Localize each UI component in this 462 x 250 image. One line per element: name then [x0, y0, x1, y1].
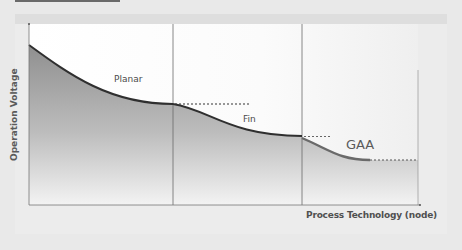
gaa-label: GAA — [346, 137, 374, 152]
x-axis-arrow-icon — [419, 204, 421, 206]
planar-label: Planar — [114, 74, 142, 84]
y-axis-arrow-icon — [28, 23, 30, 25]
x-axis-label: Process Technology (node) — [306, 210, 437, 220]
fin-label: Fin — [243, 114, 256, 124]
y-axis-label: Operation Voltage — [9, 71, 19, 161]
